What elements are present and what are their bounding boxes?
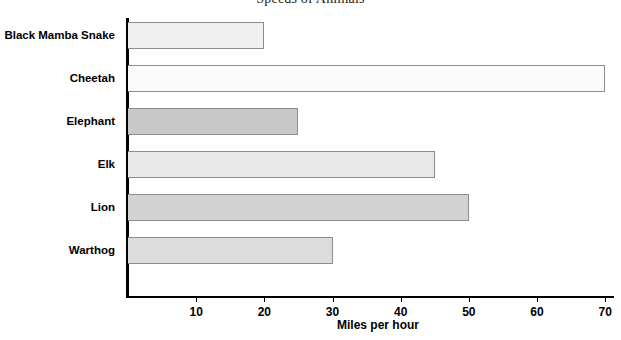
x-tick-label-40: 40 — [381, 305, 421, 319]
category-label-4: Lion — [0, 194, 115, 221]
bar-cheetah — [128, 65, 605, 92]
category-label-1: Cheetah — [0, 65, 115, 92]
category-label-2: Elephant — [0, 108, 115, 135]
x-tick-mark-60 — [537, 296, 538, 302]
x-tick-mark-40 — [401, 296, 402, 302]
category-label-3: Elk — [0, 151, 115, 178]
plot-area: 10203040506070 — [128, 18, 614, 296]
x-axis-line — [126, 296, 614, 298]
x-tick-label-10: 10 — [176, 305, 216, 319]
bar-warthog — [128, 237, 333, 264]
bar-elephant — [128, 108, 298, 135]
category-label-0: Black Mamba Snake — [0, 22, 115, 49]
x-tick-mark-30 — [333, 296, 334, 302]
chart-title: Speeds of Animals — [0, 0, 621, 7]
y-axis-category-labels: Black Mamba Snake Cheetah Elephant Elk L… — [0, 18, 121, 296]
x-tick-label-50: 50 — [449, 305, 489, 319]
x-tick-label-70: 70 — [585, 305, 621, 319]
x-axis-title: Miles per hour — [128, 318, 621, 332]
x-tick-mark-20 — [264, 296, 265, 302]
x-tick-mark-50 — [469, 296, 470, 302]
x-tick-label-20: 20 — [244, 305, 284, 319]
x-tick-label-60: 60 — [517, 305, 557, 319]
category-label-5: Warthog — [0, 237, 115, 264]
bar-elk — [128, 151, 435, 178]
x-tick-label-30: 30 — [313, 305, 353, 319]
x-tick-mark-10 — [196, 296, 197, 302]
bar-chart: Speeds of Animals Black Mamba Snake Chee… — [0, 0, 621, 340]
bar-black-mamba-snake — [128, 22, 264, 49]
bar-lion — [128, 194, 469, 221]
x-tick-mark-70 — [605, 296, 606, 302]
